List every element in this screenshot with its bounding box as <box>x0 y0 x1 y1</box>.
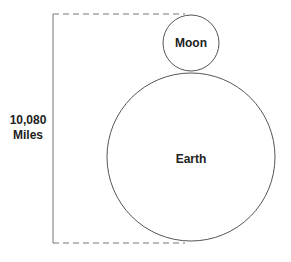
measure-label: 10,080 Miles <box>6 113 50 143</box>
measure-unit: Miles <box>6 128 50 143</box>
measure-value: 10,080 <box>6 113 50 128</box>
earth-label: Earth <box>166 152 216 167</box>
moon-label: Moon <box>166 36 216 51</box>
